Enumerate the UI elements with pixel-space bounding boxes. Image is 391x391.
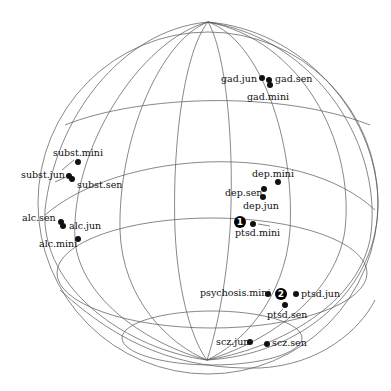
parallel-upper	[65, 101, 370, 125]
meridian	[120, 22, 208, 360]
point-label: alc.jun	[69, 220, 101, 231]
point-label: ptsd.mini	[235, 227, 280, 238]
point-label: ptsd.sen	[267, 309, 308, 320]
point-gad-jun: gad.jun	[221, 73, 265, 84]
point-gad-sen: gad.sen	[266, 73, 312, 84]
point-label: scz.jun	[216, 336, 249, 347]
point-ptsd-jun: ptsd.jun	[293, 288, 340, 299]
marker-1: 1	[234, 216, 246, 228]
data-point-dot	[259, 75, 265, 81]
data-point-dot	[264, 341, 270, 347]
data-point-dot	[69, 176, 75, 182]
point-scz-jun: scz.jun	[216, 336, 253, 347]
point-subst-jun: subst.jun	[21, 169, 72, 180]
data-point-dot	[282, 302, 288, 308]
point-label: alc.sen	[22, 212, 56, 223]
point-ptsd-sen: ptsd.sen	[267, 302, 308, 320]
data-point-dot	[75, 159, 81, 165]
meridian	[45, 22, 208, 360]
parallel-lower	[57, 218, 367, 328]
point-label: subst.mini	[53, 147, 103, 158]
point-subst-sen: subst.sen	[69, 176, 122, 190]
sphere-figure: gad.jungad.sengad.minisubst.minisubst.ju…	[0, 0, 391, 391]
data-point-dot	[266, 77, 272, 83]
data-point-dot	[267, 82, 273, 88]
point-label: subst.sen	[77, 179, 122, 190]
marker-number: 1	[237, 217, 243, 227]
marker-2: 2	[275, 288, 287, 300]
sphere-grid	[38, 22, 378, 374]
point-label: gad.mini	[247, 91, 289, 102]
data-point-dot	[293, 291, 299, 297]
point-alc-jun: alc.jun	[60, 220, 101, 231]
point-dep-mini: dep.mini	[252, 168, 294, 185]
sphere-outline	[38, 32, 378, 374]
point-label: alc.mini	[39, 238, 77, 249]
point-psychosis-mini: psychosis.mini	[200, 287, 271, 298]
point-gad-mini: gad.mini	[247, 82, 289, 102]
data-point-dot	[60, 223, 66, 229]
point-label: gad.sen	[275, 73, 312, 84]
point-alc-sen: alc.sen	[22, 212, 64, 225]
points-layer: gad.jungad.sengad.minisubst.minisubst.ju…	[21, 73, 340, 348]
point-label: scz.sen	[272, 337, 307, 348]
point-alc-mini: alc.mini	[39, 236, 81, 249]
point-subst-mini: subst.mini	[53, 147, 103, 165]
sphere-canvas: gad.jungad.sengad.minisubst.minisubst.ju…	[0, 0, 391, 391]
data-point-dot	[275, 179, 281, 185]
point-label: ptsd.jun	[301, 288, 340, 299]
point-label: psychosis.mini	[200, 287, 271, 298]
point-label: dep.jun	[243, 200, 279, 211]
point-label: dep.mini	[252, 168, 294, 179]
marker-number: 2	[278, 289, 284, 299]
point-label: gad.jun	[221, 73, 257, 84]
point-label: dep.sen	[225, 187, 262, 198]
meridian	[175, 22, 208, 360]
leader-ptsd-mini	[258, 224, 270, 226]
point-label: subst.jun	[21, 169, 65, 180]
